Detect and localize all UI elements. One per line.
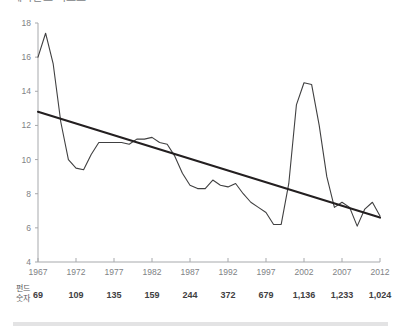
fund-count-value: 372 (220, 290, 235, 300)
fund-count-row-label-line1: 펀드 (16, 284, 30, 293)
x-axis-tick-label: 1972 (67, 267, 86, 277)
x-axis-tick-label: 1987 (181, 267, 200, 277)
y-axis-tick-label: 18 (22, 18, 32, 28)
x-axis-tick-label: 1967 (29, 267, 48, 277)
fund-count-value: 244 (182, 290, 197, 300)
fund-count-value: 159 (144, 290, 159, 300)
y-axis-tick-label: 16 (22, 52, 32, 62)
x-axis-tick-label: 2012 (371, 267, 390, 277)
fund-count-value: 69 (33, 290, 43, 300)
fund-count-row: 펀드숫자691091351592443726791,1361,2331,024 (16, 284, 391, 303)
fund-count-value: 135 (106, 290, 121, 300)
x-axis-tick-label: 1977 (105, 267, 124, 277)
y-axis-tick-label: 6 (26, 223, 31, 233)
annual-series (38, 33, 380, 226)
fund-count-value: 1,024 (369, 290, 392, 300)
fund-count-value: 109 (68, 290, 83, 300)
x-axis-tick-label: 1992 (219, 267, 238, 277)
x-axis-tick-label: 1982 (143, 267, 162, 277)
y-axis-tick-label: 14 (22, 86, 32, 96)
x-axis-tick-label: 2002 (295, 267, 314, 277)
trend-line (38, 112, 380, 218)
y-axis-tick-label: 8 (26, 189, 31, 199)
x-axis: 1967197219771982198719921997200220072012 (29, 258, 390, 277)
fund-count-row-label-line2: 숫자 (16, 294, 31, 303)
y-axis: 1816141210864 (22, 18, 38, 267)
footer-divider (13, 322, 388, 326)
x-axis-tick-label: 2007 (333, 267, 352, 277)
line-chart-plot: 1816141210864 19671972197719821987199219… (0, 0, 402, 330)
y-axis-tick-label: 10 (22, 155, 32, 165)
chart-figure: 헤지펀드 리포트 1816141210864 19671972197719821… (0, 0, 402, 330)
y-axis-tick-label: 4 (26, 257, 31, 267)
x-axis-tick-label: 1997 (257, 267, 276, 277)
data-series-group (38, 33, 380, 226)
y-axis-tick-label: 12 (22, 120, 32, 130)
fund-count-value: 679 (258, 290, 273, 300)
fund-count-value: 1,233 (331, 290, 354, 300)
fund-count-value: 1,136 (293, 290, 316, 300)
